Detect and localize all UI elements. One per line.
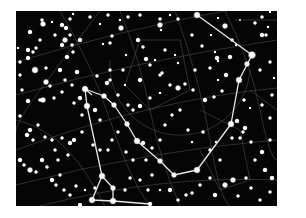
star xyxy=(74,184,78,188)
constellation-star xyxy=(134,138,141,145)
star xyxy=(106,148,110,152)
star xyxy=(32,67,39,74)
star xyxy=(84,189,87,192)
star xyxy=(68,141,73,146)
star xyxy=(45,165,49,169)
star xyxy=(26,56,31,61)
star xyxy=(108,68,112,72)
star xyxy=(78,96,83,101)
star xyxy=(212,95,216,99)
star xyxy=(224,73,229,78)
star xyxy=(51,21,54,24)
star xyxy=(99,23,102,26)
star xyxy=(138,178,142,182)
star xyxy=(18,114,22,118)
star xyxy=(62,188,66,192)
star xyxy=(78,38,83,43)
star xyxy=(108,78,112,82)
star xyxy=(72,138,77,143)
star xyxy=(27,167,33,173)
star xyxy=(208,176,212,180)
star xyxy=(50,138,54,142)
star xyxy=(68,193,72,197)
star xyxy=(121,68,125,72)
star xyxy=(108,41,112,45)
constellation-star xyxy=(236,77,243,84)
star xyxy=(249,186,253,190)
star xyxy=(228,55,233,60)
star xyxy=(50,178,55,183)
constellation-star xyxy=(248,51,256,59)
star xyxy=(131,108,135,112)
star xyxy=(68,17,72,21)
star xyxy=(34,170,38,174)
star xyxy=(144,158,148,162)
star xyxy=(193,68,197,72)
star xyxy=(258,68,262,72)
star xyxy=(263,168,268,173)
star xyxy=(200,44,204,48)
star xyxy=(20,88,24,92)
star xyxy=(268,60,272,64)
star xyxy=(176,17,180,21)
star xyxy=(148,96,152,100)
star xyxy=(116,93,120,97)
star-chart xyxy=(0,0,306,218)
star xyxy=(138,13,142,17)
star xyxy=(123,188,127,192)
star xyxy=(191,88,195,92)
star xyxy=(230,177,236,183)
star xyxy=(64,26,69,31)
star xyxy=(260,33,265,38)
star xyxy=(60,43,65,48)
star xyxy=(267,26,270,29)
star xyxy=(126,103,130,107)
star xyxy=(208,66,212,70)
star xyxy=(144,57,149,62)
star xyxy=(190,191,194,195)
star xyxy=(28,30,33,35)
star xyxy=(116,130,120,134)
star xyxy=(93,108,98,113)
star xyxy=(102,43,105,46)
star xyxy=(38,38,42,42)
star xyxy=(203,98,208,103)
star xyxy=(60,90,64,94)
star xyxy=(176,198,180,202)
star xyxy=(53,33,57,37)
star xyxy=(174,54,177,57)
star xyxy=(170,113,174,117)
star xyxy=(148,63,152,67)
star xyxy=(220,89,224,93)
star xyxy=(241,130,245,134)
star xyxy=(186,128,190,132)
star xyxy=(66,153,70,157)
star xyxy=(68,33,72,37)
star xyxy=(72,13,75,16)
star xyxy=(54,183,58,187)
star xyxy=(124,84,127,87)
star xyxy=(26,48,31,53)
star xyxy=(159,189,162,192)
star xyxy=(43,79,49,85)
star xyxy=(138,104,143,109)
star xyxy=(258,198,262,202)
star xyxy=(126,15,130,19)
star xyxy=(71,50,75,54)
star xyxy=(163,123,167,127)
star xyxy=(168,188,173,193)
star xyxy=(183,82,187,86)
star xyxy=(239,19,241,21)
star xyxy=(222,182,228,188)
constellation-star xyxy=(228,121,235,128)
star xyxy=(268,116,272,120)
star xyxy=(44,66,48,70)
star xyxy=(26,99,31,104)
star xyxy=(118,25,124,31)
star xyxy=(242,98,246,102)
constellation-star xyxy=(82,86,89,93)
star xyxy=(80,130,84,134)
star xyxy=(75,70,80,75)
star xyxy=(159,92,162,95)
star xyxy=(124,150,128,154)
